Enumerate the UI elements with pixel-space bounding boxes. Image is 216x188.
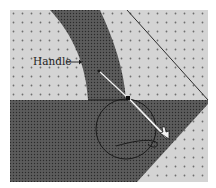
anchor-point-icon: [126, 96, 130, 100]
path-handle-diagram: Handle: [0, 0, 216, 188]
handle-label: Handle: [33, 55, 71, 67]
handle-endpoint-icon: [98, 70, 101, 73]
